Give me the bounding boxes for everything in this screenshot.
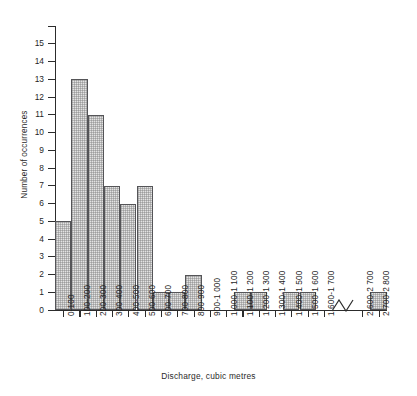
x-axis-tick — [379, 311, 380, 317]
x-axis-tick — [79, 311, 80, 317]
y-axis-tick-label: 8 — [26, 164, 44, 172]
x-axis-tick-label: 1 100-1 200 — [246, 242, 254, 316]
y-axis-tick — [48, 274, 55, 275]
x-axis-tick — [161, 311, 162, 317]
y-axis-tick — [48, 79, 55, 80]
x-axis-tick-label: 1 600-1 700 — [327, 242, 335, 316]
y-axis-tick — [48, 256, 55, 257]
y-axis-tick — [48, 26, 55, 27]
x-axis-tick-label: 200-300 — [99, 242, 107, 316]
x-axis-tick — [63, 311, 64, 317]
y-axis-tick-label: 15 — [26, 39, 44, 47]
y-axis-tick — [48, 168, 55, 169]
y-axis-tick-label: 3 — [26, 252, 44, 260]
x-axis-tick — [324, 311, 325, 317]
x-axis-tick — [96, 311, 97, 317]
x-axis-tick-label: 2 700-2 800 — [382, 242, 390, 316]
y-axis-tick — [48, 132, 55, 133]
x-axis-tick — [177, 311, 178, 317]
x-axis-tick-label: 500-600 — [148, 242, 156, 316]
y-axis-tick — [48, 292, 55, 293]
y-axis-tick-label: 9 — [26, 146, 44, 154]
x-axis-tick-label: 1 200-1 300 — [262, 242, 270, 316]
x-axis-tick-label: 0-100 — [67, 242, 75, 316]
y-axis-tick — [48, 150, 55, 151]
x-axis-title: Discharge, cubic metres — [0, 371, 417, 381]
x-axis-tick — [242, 311, 243, 317]
y-axis-tick — [48, 310, 55, 311]
x-axis-tick-label: 100-200 — [83, 242, 91, 316]
x-axis-tick-label: 600-700 — [164, 242, 172, 316]
y-axis-tick-label: 11 — [26, 110, 44, 118]
y-axis-tick-label: 2 — [26, 270, 44, 278]
x-axis-tick-label: 2 600-2 700 — [366, 242, 374, 316]
x-axis-tick-label: 300-400 — [115, 242, 123, 316]
y-axis-tick-label: 13 — [26, 75, 44, 83]
histogram-chart: Number of occurrences 012345678910111213… — [0, 0, 417, 396]
x-axis-tick — [362, 311, 363, 317]
y-axis-tick-label: 12 — [26, 93, 44, 101]
y-axis-tick — [48, 203, 55, 204]
x-axis-tick — [226, 311, 227, 317]
x-axis-tick-label: 900-1 000 — [213, 242, 221, 316]
x-axis-tick — [194, 311, 195, 317]
y-axis-tick-label: 1 — [26, 288, 44, 296]
x-axis-tick-label: 400-500 — [132, 242, 140, 316]
x-axis-tick — [128, 311, 129, 317]
x-axis-tick — [210, 311, 211, 317]
x-axis-tick-label: 700-800 — [181, 242, 189, 316]
y-axis-tick-label: 6 — [26, 199, 44, 207]
x-axis-tick-label: 1 400-1 500 — [295, 242, 303, 316]
y-axis-tick-label: 14 — [26, 57, 44, 65]
y-axis-tick — [48, 185, 55, 186]
y-axis-tick — [48, 221, 55, 222]
y-axis-tick — [48, 61, 55, 62]
x-axis-tick — [291, 311, 292, 317]
x-axis-tick-label: 1 500-1 600 — [311, 242, 319, 316]
y-axis-tick-label: 5 — [26, 217, 44, 225]
y-axis-tick-label: 10 — [26, 128, 44, 136]
x-axis-tick — [145, 311, 146, 317]
y-axis-tick-label: 7 — [26, 181, 44, 189]
y-axis-tick-label: 0 — [26, 306, 44, 314]
x-axis-tick — [275, 311, 276, 317]
y-axis-tick — [48, 114, 55, 115]
x-axis-tick-label: 1 000-1 100 — [230, 242, 238, 316]
y-axis-tick — [48, 239, 55, 240]
x-axis-tick-label: 800-900 — [197, 242, 205, 316]
x-axis-tick — [308, 311, 309, 317]
x-axis-tick — [112, 311, 113, 317]
x-axis-tick — [259, 311, 260, 317]
x-axis-tick-label: 1 300-1 400 — [278, 242, 286, 316]
y-axis-tick-label: 4 — [26, 235, 44, 243]
y-axis-tick — [48, 97, 55, 98]
y-axis-tick — [48, 43, 55, 44]
